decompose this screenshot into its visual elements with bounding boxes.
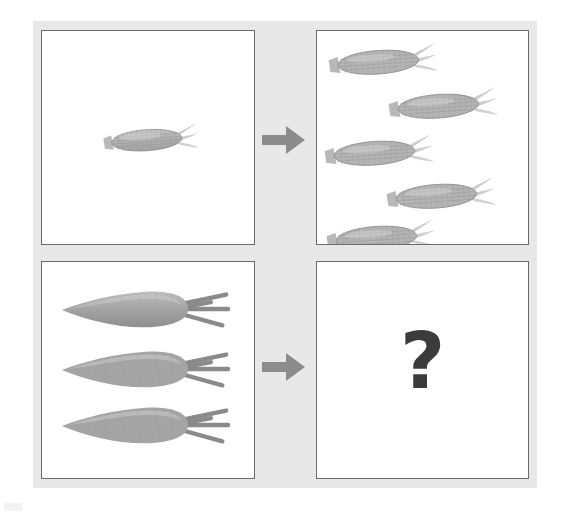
corn-icon: [101, 120, 199, 161]
arrow-right-icon: [260, 346, 308, 388]
carrot-icon: [58, 399, 230, 449]
arrow-right-icon: [260, 119, 308, 161]
corn-icon: [384, 173, 496, 219]
question-mark: ?: [317, 322, 528, 400]
corn-icon: [324, 215, 436, 245]
top-left-panel: [41, 30, 255, 245]
top-right-panel: [316, 30, 529, 245]
bottom-right-panel: ?: [316, 261, 529, 479]
corn-icon: [326, 39, 438, 85]
bottom-left-panel: [41, 261, 255, 479]
corn-icon: [386, 83, 498, 129]
corn-icon: [322, 130, 434, 176]
analogy-puzzle-figure: ?: [33, 21, 537, 488]
carrot-icon: [58, 343, 230, 393]
carrot-icon: [58, 283, 230, 333]
page-edge-artifact: [4, 503, 22, 511]
